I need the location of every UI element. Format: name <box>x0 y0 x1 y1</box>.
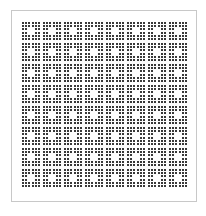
dot-block <box>127 169 148 190</box>
dot-block <box>106 43 127 64</box>
dot-block <box>127 106 148 127</box>
dot-block <box>64 22 85 43</box>
dot-block <box>127 64 148 85</box>
dot-block <box>106 169 127 190</box>
dot-block <box>43 169 64 190</box>
dot-block <box>85 106 106 127</box>
dot-block <box>169 85 190 106</box>
dot-block <box>127 127 148 148</box>
dot-block <box>85 43 106 64</box>
dot-block <box>64 85 85 106</box>
dot-block <box>85 127 106 148</box>
dot-block <box>22 64 43 85</box>
dot-block <box>127 43 148 64</box>
dot-block <box>64 43 85 64</box>
dot-block <box>64 148 85 169</box>
dot-block <box>22 22 43 43</box>
dot-block <box>106 22 127 43</box>
dot-block <box>22 106 43 127</box>
dot-block <box>85 64 106 85</box>
dot-grid <box>22 22 190 190</box>
dot-block <box>148 64 169 85</box>
dot-block <box>22 127 43 148</box>
dot-block <box>64 127 85 148</box>
dot-block <box>127 22 148 43</box>
dot-block <box>43 106 64 127</box>
dot-block <box>22 169 43 190</box>
dot-block <box>169 43 190 64</box>
dot-block <box>43 85 64 106</box>
dot-block <box>169 22 190 43</box>
dot-block <box>148 127 169 148</box>
dot-block <box>148 169 169 190</box>
dot-block <box>22 85 43 106</box>
dot-block <box>85 85 106 106</box>
dot-block <box>85 148 106 169</box>
dot-block <box>169 127 190 148</box>
dot-block <box>64 106 85 127</box>
dot-block <box>148 148 169 169</box>
dot-block <box>106 64 127 85</box>
dot-block <box>169 64 190 85</box>
dot-block <box>85 169 106 190</box>
dot-block <box>106 106 127 127</box>
dot-block <box>148 85 169 106</box>
dot-block <box>169 106 190 127</box>
dot-block <box>43 43 64 64</box>
dot-block <box>43 22 64 43</box>
dot-block <box>85 22 106 43</box>
dot-block <box>43 64 64 85</box>
dot-block <box>148 22 169 43</box>
dot-block <box>169 148 190 169</box>
dot-block <box>43 127 64 148</box>
dot-block <box>127 148 148 169</box>
dot-block <box>148 106 169 127</box>
dot-block <box>43 148 64 169</box>
dot-block <box>64 64 85 85</box>
dot-block <box>106 85 127 106</box>
dot-block <box>148 43 169 64</box>
dot-block <box>106 148 127 169</box>
dot-block <box>22 43 43 64</box>
dot-block <box>22 148 43 169</box>
dot-block <box>106 127 127 148</box>
dot-block <box>127 85 148 106</box>
dot-block <box>169 169 190 190</box>
dot-block <box>64 169 85 190</box>
